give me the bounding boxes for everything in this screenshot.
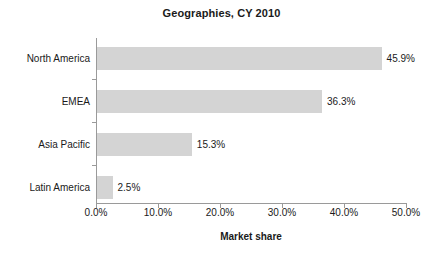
category-label-asia-pacific: Asia Pacific <box>0 133 90 156</box>
value-label-north-america: 45.9% <box>387 47 415 70</box>
y-axis-tick <box>92 165 96 166</box>
value-label-emea: 36.3% <box>327 90 355 113</box>
x-tick-label-1: 10.0% <box>128 207 188 218</box>
x-tick-label-3: 30.0% <box>252 207 312 218</box>
bar-asia-pacific <box>97 133 192 156</box>
y-axis-tick <box>92 79 96 80</box>
x-axis-title: Market share <box>96 231 406 242</box>
bar-latin-america <box>97 176 113 199</box>
plot-area: 45.9% 36.3% 15.3% 2.5% <box>96 38 406 203</box>
category-label-emea: EMEA <box>0 90 90 113</box>
x-tick-label-5: 50.0% <box>376 207 436 218</box>
x-tick-label-0: 0.0% <box>66 207 126 218</box>
y-axis-tick <box>92 122 96 123</box>
chart-title: Geographies, CY 2010 <box>0 7 443 19</box>
value-label-latin-america: 2.5% <box>118 176 141 199</box>
category-label-north-america: North America <box>0 47 90 70</box>
bar-emea <box>97 90 322 113</box>
x-axis-line <box>96 203 407 204</box>
category-label-latin-america: Latin America <box>0 176 90 199</box>
x-axis-tick-labels: 0.0% 10.0% 20.0% 30.0% 40.0% 50.0% <box>0 207 443 221</box>
y-axis-category-labels: North America EMEA Asia Pacific Latin Am… <box>0 38 90 203</box>
x-tick-label-4: 40.0% <box>314 207 374 218</box>
bar-north-america <box>97 47 382 70</box>
x-tick-label-2: 20.0% <box>190 207 250 218</box>
value-label-asia-pacific: 15.3% <box>197 133 225 156</box>
chart-screenshot: Geographies, CY 2010 North America EMEA … <box>0 0 443 253</box>
